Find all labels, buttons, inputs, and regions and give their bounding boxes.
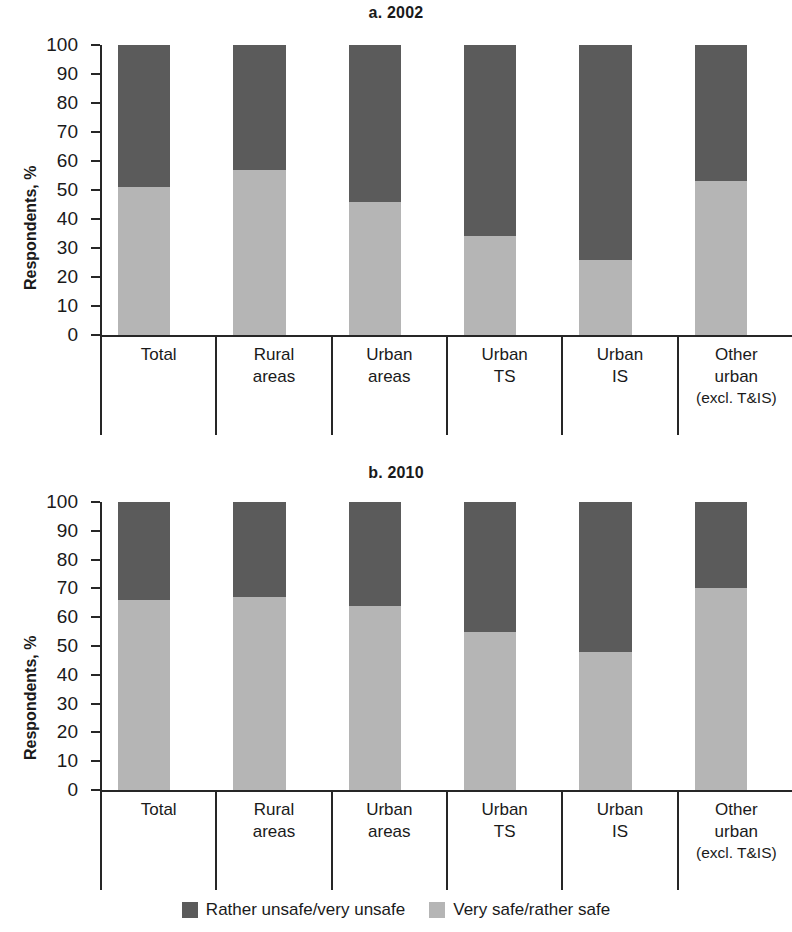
y-tick-2010-100: 100 — [91, 501, 100, 503]
bar-segment-safe-2002-3 — [464, 236, 516, 335]
category-label-2010-1: Ruralareas — [217, 792, 332, 890]
y-tick-2002-100: 100 — [91, 44, 100, 46]
y-tick-label-2010-60: 60 — [32, 606, 78, 628]
legend-swatch-unsafe — [182, 902, 198, 918]
y-tick-2002-10: 10 — [91, 305, 100, 307]
category-label-line: (excl. T&IS) — [679, 843, 792, 863]
y-tick-label-2010-10: 10 — [32, 750, 78, 772]
y-tick-label-2010-30: 30 — [32, 693, 78, 715]
bar-2002-0 — [118, 45, 170, 335]
bar-segment-safe-2010-2 — [349, 606, 401, 790]
chart-panel-2002: a. 2002 Respondents, % 01020304050607080… — [0, 0, 792, 460]
bar-segment-unsafe-2010-5 — [695, 502, 747, 588]
y-tick-label-2002-90: 90 — [32, 63, 78, 85]
bar-segment-safe-2002-1 — [233, 170, 285, 335]
bar-segment-safe-2002-2 — [349, 202, 401, 335]
y-tick-label-2010-50: 50 — [32, 635, 78, 657]
y-tick-label-2002-80: 80 — [32, 92, 78, 114]
panel-title-2010: b. 2010 — [0, 464, 792, 482]
category-label-line: IS — [563, 366, 676, 388]
y-tick-label-2002-0: 0 — [32, 324, 78, 346]
y-tick-label-2002-40: 40 — [32, 208, 78, 230]
y-tick-2002-50: 50 — [91, 189, 100, 191]
category-label-line: Total — [102, 344, 215, 366]
y-tick-2002-20: 20 — [91, 276, 100, 278]
bar-segment-unsafe-2010-1 — [233, 502, 285, 597]
category-label-line: Urban — [563, 344, 676, 366]
bar-segment-unsafe-2010-4 — [579, 502, 631, 652]
bar-2010-4 — [579, 502, 631, 790]
y-tick-2010-80: 80 — [91, 559, 100, 561]
bar-segment-safe-2002-0 — [118, 187, 170, 335]
y-tick-label-2002-60: 60 — [32, 150, 78, 172]
y-tick-label-2010-40: 40 — [32, 664, 78, 686]
bar-2002-5 — [695, 45, 747, 335]
bar-segment-safe-2010-5 — [695, 588, 747, 790]
bars-2002 — [100, 45, 792, 335]
y-tick-2002-40: 40 — [91, 218, 100, 220]
category-band-2002: TotalRuralareasUrbanareasUrbanTSUrbanISO… — [100, 337, 792, 435]
bar-2002-1 — [233, 45, 285, 335]
category-label-line: Other — [679, 799, 792, 821]
plot-area-2002: 0102030405060708090100 — [100, 45, 792, 335]
bar-2002-2 — [349, 45, 401, 335]
bar-2010-2 — [349, 502, 401, 790]
y-tick-2010-10: 10 — [91, 760, 100, 762]
bar-segment-unsafe-2010-2 — [349, 502, 401, 606]
y-tick-label-2002-70: 70 — [32, 121, 78, 143]
bar-segment-unsafe-2002-5 — [695, 45, 747, 181]
y-tick-label-2010-80: 80 — [32, 549, 78, 571]
bar-segment-safe-2010-3 — [464, 632, 516, 790]
category-label-line: urban — [679, 821, 792, 843]
y-tick-label-2002-100: 100 — [32, 34, 78, 56]
category-label-line: areas — [217, 366, 330, 388]
y-tick-2002-30: 30 — [91, 247, 100, 249]
category-label-line: Urban — [333, 344, 446, 366]
y-tick-2010-40: 40 — [91, 674, 100, 676]
y-tick-label-2002-50: 50 — [32, 179, 78, 201]
category-label-line: Urban — [563, 799, 676, 821]
bar-2002-4 — [579, 45, 631, 335]
category-label-line: Urban — [333, 799, 446, 821]
category-label-line: TS — [448, 821, 561, 843]
category-label-line: Rural — [217, 344, 330, 366]
bar-2010-3 — [464, 502, 516, 790]
bar-segment-unsafe-2002-4 — [579, 45, 631, 260]
bar-segment-unsafe-2010-3 — [464, 502, 516, 632]
category-label-line: Rural — [217, 799, 330, 821]
y-tick-2002-70: 70 — [91, 131, 100, 133]
category-label-2002-5: Otherurban(excl. T&IS) — [679, 337, 792, 435]
bar-segment-safe-2010-4 — [579, 652, 631, 790]
bar-segment-unsafe-2002-3 — [464, 45, 516, 236]
category-label-2002-1: Ruralareas — [217, 337, 332, 435]
category-label-line: areas — [333, 366, 446, 388]
category-label-2010-2: Urbanareas — [333, 792, 448, 890]
y-tick-label-2002-30: 30 — [32, 237, 78, 259]
category-label-line: areas — [217, 821, 330, 843]
category-label-2002-4: UrbanIS — [563, 337, 678, 435]
y-tick-label-2002-10: 10 — [32, 295, 78, 317]
category-label-line: Total — [102, 799, 215, 821]
y-tick-2002-90: 90 — [91, 73, 100, 75]
bar-segment-safe-2010-0 — [118, 600, 170, 790]
category-label-2002-0: Total — [102, 337, 217, 435]
bars-2010 — [100, 502, 792, 790]
bar-2010-1 — [233, 502, 285, 790]
y-tick-2010-70: 70 — [91, 587, 100, 589]
y-tick-label-2010-70: 70 — [32, 577, 78, 599]
y-tick-2010-50: 50 — [91, 645, 100, 647]
chart-panel-2010: b. 2010 Respondents, % 01020304050607080… — [0, 460, 792, 900]
bar-segment-safe-2002-5 — [695, 181, 747, 335]
category-label-2010-3: UrbanTS — [448, 792, 563, 890]
category-label-2010-4: UrbanIS — [563, 792, 678, 890]
chart-legend: Rather unsafe/very unsafeVery safe/rathe… — [0, 900, 792, 920]
category-label-line: (excl. T&IS) — [679, 388, 792, 408]
bar-segment-unsafe-2002-0 — [118, 45, 170, 187]
y-tick-2002-0: 0 — [91, 334, 100, 336]
plot-area-2010: 0102030405060708090100 — [100, 502, 792, 790]
legend-item-1: Very safe/rather safe — [429, 900, 610, 920]
category-label-2002-2: Urbanareas — [333, 337, 448, 435]
category-label-line: Urban — [448, 344, 561, 366]
y-tick-2010-30: 30 — [91, 703, 100, 705]
category-band-2010: TotalRuralareasUrbanareasUrbanTSUrbanISO… — [100, 792, 792, 890]
